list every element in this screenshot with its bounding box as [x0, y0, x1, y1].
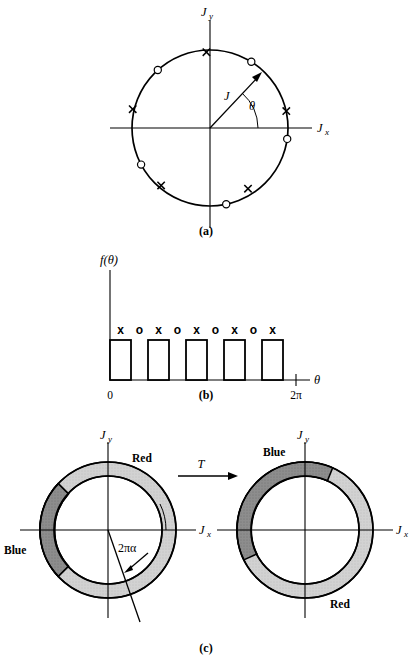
left-ring-x-axis-label-sub: x	[206, 529, 211, 539]
panel-b-marker: o	[250, 323, 257, 337]
panel-a-y-axis-label: J y	[201, 5, 213, 21]
panel-a-x-axis-label-sub: x	[324, 127, 329, 137]
panel-b-marker: x	[231, 323, 238, 337]
right-ring-y-axis-label-sub: y	[304, 434, 309, 444]
bar	[262, 340, 283, 380]
bar	[224, 340, 245, 380]
panel-b-tick-end: 2π	[290, 389, 302, 401]
left-ring-x-axis-label: J x	[199, 523, 211, 539]
panel-b-marker: x	[117, 323, 124, 337]
panel-b-marker: x	[269, 323, 276, 337]
left-ring-angle-label: 2πα	[118, 541, 137, 555]
panel-b-tick-start: 0	[107, 389, 113, 401]
panel-c: 2πα Red Blue J y J x T	[0, 410, 412, 659]
panel-b-marker: x	[193, 323, 200, 337]
right-ring-dark-label: Blue	[263, 446, 285, 458]
panel-c-caption: (c)	[199, 641, 212, 655]
figure-root: J y J x J θ (a) x o x o	[0, 0, 412, 659]
marker-open	[223, 201, 230, 208]
right-ring-y-axis-label: J y	[297, 428, 309, 444]
panel-b-bars	[110, 340, 283, 380]
panel-a-y-axis-label-sub: y	[208, 11, 213, 21]
left-ring-x-axis-label-main: J	[199, 523, 206, 537]
left-ring-y-axis-label-main: J	[100, 428, 107, 442]
panel-b-y-axis-label: f(θ)	[100, 253, 118, 267]
panel-a-y-axis-label-main: J	[201, 5, 208, 19]
left-ring-y-axis-label-sub: y	[107, 434, 112, 444]
panel-a-x-axis-label: J x	[317, 121, 329, 137]
right-ring-y-axis-label-main: J	[297, 428, 304, 442]
marker-open	[248, 58, 255, 65]
left-ring-dark-label: Blue	[4, 544, 26, 556]
bar	[186, 340, 207, 380]
panel-b-caption: (b)	[199, 388, 214, 402]
right-ring-x-axis-label: J x	[396, 523, 408, 539]
left-ring-light-label: Red	[132, 452, 152, 464]
panel-b-x-axis-label: θ	[314, 373, 320, 387]
panel-a-vector-label: J	[224, 89, 231, 103]
marker-open	[138, 161, 145, 168]
panel-a-x-axis-label-main: J	[317, 121, 324, 135]
right-ring-dark-sector	[237, 462, 333, 560]
right-ring-x-axis-label-sub: x	[403, 529, 408, 539]
marker-open	[154, 66, 161, 73]
panel-b: x o x o x o x o x f(θ) θ 0 2π (b)	[0, 240, 412, 410]
marker-cross	[129, 106, 136, 113]
panel-c-right-ring: Blue Red J y J x	[217, 428, 408, 618]
panel-c-left-ring: 2πα Red Blue J y J x	[4, 428, 211, 622]
panel-a-caption: (a)	[199, 224, 213, 238]
panel-a-theta-label: θ	[249, 99, 255, 113]
panel-b-marker-row: x o x o x o x o x	[117, 323, 276, 337]
bar	[110, 340, 131, 380]
transform-arrow: T	[178, 457, 238, 480]
panel-b-marker: x	[155, 323, 162, 337]
panel-b-marker: o	[174, 323, 181, 337]
panel-a: J y J x J θ (a)	[0, 0, 412, 240]
bar	[148, 340, 169, 380]
right-ring-light-label: Red	[330, 598, 350, 610]
right-ring-x-axis-label-main: J	[396, 523, 403, 537]
panel-b-marker: o	[136, 323, 143, 337]
marker-cross	[244, 185, 251, 192]
left-ring-y-axis-label: J y	[100, 428, 112, 444]
marker-open	[284, 135, 291, 142]
transform-label: T	[198, 457, 206, 471]
panel-b-marker: o	[212, 323, 219, 337]
